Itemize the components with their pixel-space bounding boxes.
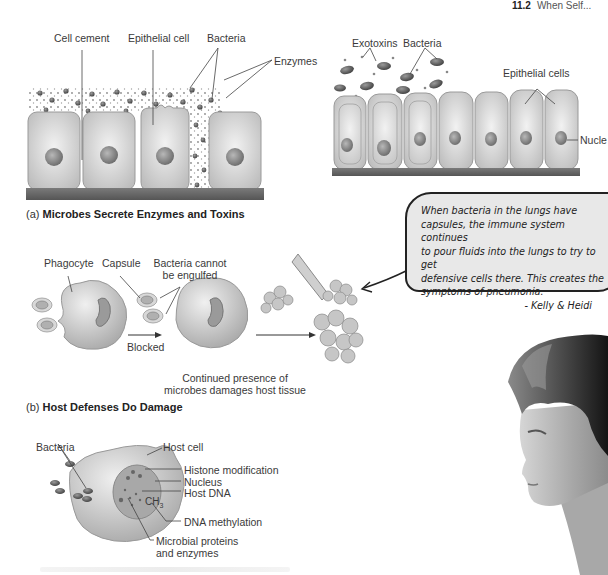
label-microbial-proteins: Microbial proteins and enzymes: [156, 535, 238, 559]
label-ch3: CH3: [145, 496, 163, 510]
label-host-cell: Host cell: [163, 441, 203, 453]
cropped-caption-text: [40, 567, 290, 572]
ch3-text: CH: [145, 496, 159, 507]
ch3-subscript: 3: [159, 502, 163, 509]
label-histone-modification: Histone modification: [184, 464, 279, 476]
label-bacteria-c: Bacteria: [36, 441, 75, 453]
host-cell-epigenetics-drawing: [0, 0, 608, 575]
label-host-dna: Host DNA: [184, 487, 231, 499]
label-dna-methylation: DNA methylation: [184, 516, 262, 528]
label-microbial-line1: Microbial proteins: [156, 535, 238, 547]
label-microbial-line2: and enzymes: [156, 547, 238, 559]
